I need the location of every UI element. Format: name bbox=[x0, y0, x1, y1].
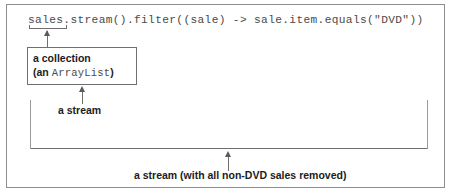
figure-frame bbox=[6, 4, 445, 188]
collection-callout-arrowhead bbox=[79, 86, 85, 92]
collection-label-line1: a collection bbox=[33, 52, 91, 64]
sales-bracket-right-tick bbox=[66, 25, 67, 29]
collection-label-prefix: (an bbox=[33, 66, 52, 78]
expression-bracket-left-tick bbox=[30, 100, 31, 149]
sales-bracket-bar bbox=[29, 28, 67, 29]
stream-annotation-figure: sales.stream().filter((sale) -> sale.ite… bbox=[0, 0, 449, 195]
collection-callout-text: a collection (an ArrayList) bbox=[33, 52, 137, 80]
stream-label: a stream bbox=[58, 104, 101, 116]
expression-callout-arrowhead bbox=[225, 151, 231, 157]
expression-bracket-bar bbox=[30, 148, 428, 149]
collection-label-suffix: ) bbox=[110, 66, 114, 78]
sales-bracket-left-tick bbox=[29, 25, 30, 29]
collection-label-type: ArrayList bbox=[52, 67, 111, 79]
result-label: a stream (with all non-DVD sales removed… bbox=[134, 169, 346, 181]
expression-bracket-right-tick bbox=[427, 100, 428, 149]
sales-callout-arrowhead bbox=[44, 30, 50, 36]
code-expression: sales.stream().filter((sale) -> sale.ite… bbox=[28, 13, 424, 27]
